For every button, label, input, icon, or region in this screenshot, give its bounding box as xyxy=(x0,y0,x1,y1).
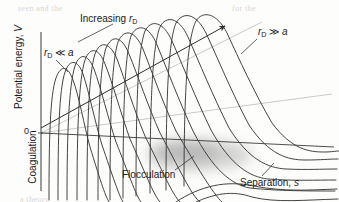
rd-small-relation: ≪ xyxy=(53,47,69,58)
flocculation-label: Flocculation xyxy=(122,170,175,180)
increasing-rd-label: Increasing rD xyxy=(80,14,137,25)
rd-large-target: a xyxy=(282,26,288,37)
leader-increasing-rd xyxy=(78,24,113,42)
rd-small-target: a xyxy=(68,47,74,58)
coagulation-label: Coagulation xyxy=(28,122,38,192)
leader-rd-small xyxy=(56,60,68,72)
separation-prefix: Separation, xyxy=(240,177,294,188)
y-axis-label: Potential energy, V xyxy=(14,12,24,122)
increasing-subscript: D xyxy=(132,17,137,26)
separation-axis-label: Separation, s xyxy=(240,178,299,188)
rd-much-greater-label: rD ≫ a xyxy=(258,27,288,38)
leader-rd-large xyxy=(241,39,257,54)
dlvo-curve-tail-a xyxy=(196,193,338,202)
y-axis xyxy=(38,32,43,191)
rd-large-relation: ≫ xyxy=(267,26,283,37)
y-axis-label-symbol: V xyxy=(13,25,24,32)
rd-much-less-label: rD ≪ a xyxy=(44,48,74,59)
y-axis-label-text: Potential energy, xyxy=(13,32,24,109)
increasing-rd-arrow xyxy=(41,26,225,128)
dlvo-potential-energy-figure: seen and the for the a theory xyxy=(0,0,339,202)
separation-symbol: s xyxy=(294,177,299,188)
increasing-prefix: Increasing xyxy=(80,13,129,24)
